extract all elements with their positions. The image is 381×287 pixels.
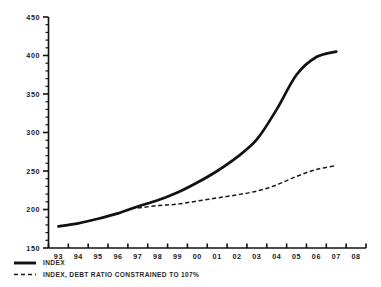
chart-legend: INDEXINDEX, DEBT RATIO CONSTRAINED TO 10…: [14, 259, 199, 279]
y-axis-tick-label: 300: [26, 128, 40, 137]
series-line-index: [58, 52, 336, 227]
x-axis-tick-label: 95: [94, 252, 103, 261]
x-axis-tick-label: 04: [272, 252, 281, 261]
x-axis-tick-label: 98: [153, 252, 162, 261]
y-axis: 150200250300350400450: [26, 13, 48, 253]
data-series-group: [58, 52, 336, 227]
line-chart: 150200250300350400450 939495969798990001…: [0, 0, 381, 287]
y-axis-tick-label: 200: [26, 205, 40, 214]
chart-canvas: 150200250300350400450 939495969798990001…: [0, 0, 381, 287]
x-axis: 93949596979899000102030405060708: [49, 244, 367, 261]
series-line-constrained: [138, 166, 336, 208]
x-axis-tick-label: 00: [193, 252, 202, 261]
y-axis-tick-label: 450: [26, 13, 40, 22]
x-axis-tick-label: 94: [74, 252, 83, 261]
x-axis-tick-label: 96: [113, 252, 122, 261]
y-axis-tick-label: 400: [26, 51, 40, 60]
x-axis-tick-label: 99: [173, 252, 182, 261]
x-axis-tick-label: 01: [213, 252, 222, 261]
x-axis-tick-label: 06: [312, 252, 321, 261]
x-axis-tick-label: 05: [292, 252, 301, 261]
legend-label: INDEX, DEBT RATIO CONSTRAINED TO 107%: [43, 271, 199, 279]
x-axis-tick-label: 03: [252, 252, 261, 261]
y-axis-tick-label: 350: [26, 90, 40, 99]
y-axis-tick-label: 150: [26, 244, 40, 253]
x-axis-tick-label: 07: [332, 252, 341, 261]
x-axis-tick-label: 02: [232, 252, 241, 261]
legend-label: INDEX: [43, 259, 65, 266]
x-axis-tick-label: 08: [352, 252, 361, 261]
y-axis-tick-label: 250: [26, 167, 40, 176]
x-axis-tick-label: 97: [133, 252, 142, 261]
